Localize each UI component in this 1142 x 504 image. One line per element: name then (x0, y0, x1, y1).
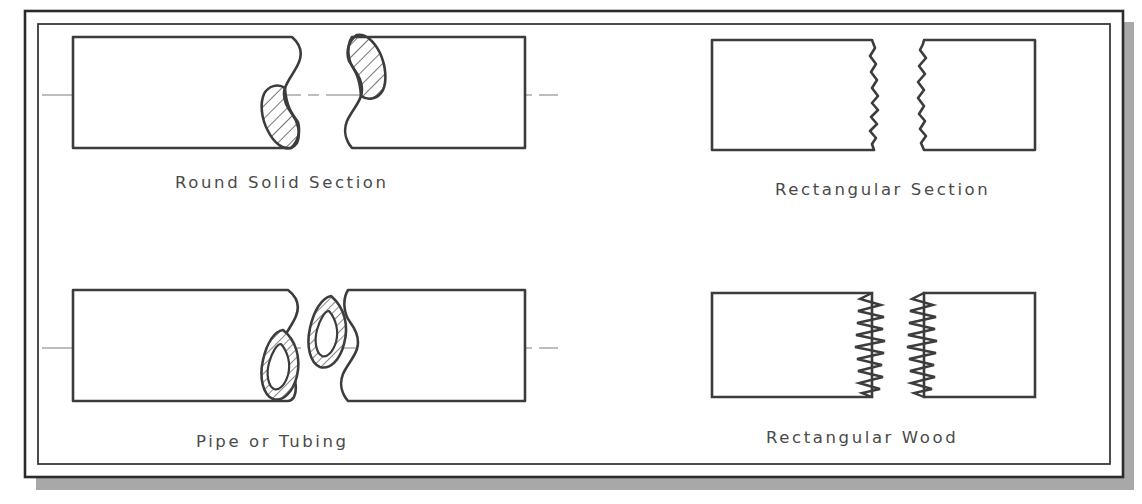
pipe-right-body (341, 290, 525, 401)
drawing-sheet: Round Solid Section Rectangular Section … (0, 0, 1142, 504)
wood-right-block (924, 293, 1035, 397)
wood-left-block (712, 293, 872, 397)
technical-drawing-canvas (0, 0, 1142, 504)
rect-right-block (918, 40, 1035, 150)
caption-rectangular-wood: Rectangular Wood (766, 428, 958, 447)
caption-pipe-or-tubing: Pipe or Tubing (196, 432, 349, 451)
caption-rectangular-section: Rectangular Section (775, 180, 990, 199)
caption-round-solid-section: Round Solid Section (175, 173, 389, 192)
rect-left-block (712, 40, 878, 150)
